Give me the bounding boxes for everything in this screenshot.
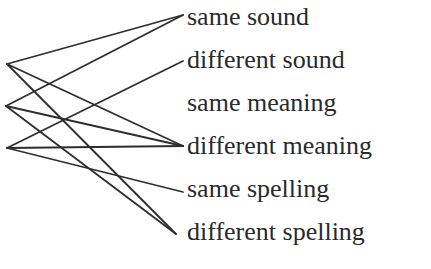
labels-group: same sound different sound same meaning …: [187, 2, 372, 246]
label-different-meaning: different meaning: [187, 131, 372, 160]
connection-diagram: same sound different sound same meaning …: [0, 0, 431, 269]
label-same-sound: same sound: [187, 2, 309, 31]
edge-c-different-meaning: [7, 146, 183, 148]
edge-a-different-spelling: [7, 64, 176, 234]
label-different-sound: different sound: [187, 45, 345, 74]
label-same-spelling: same spelling: [187, 174, 329, 203]
edge-c-different-sound: [7, 61, 183, 148]
label-same-meaning: same meaning: [187, 88, 336, 117]
edges-group: [6, 15, 183, 234]
edge-c-same-spelling: [7, 148, 183, 192]
edge-b-same-sound: [6, 15, 183, 106]
label-different-spelling: different spelling: [187, 217, 365, 246]
edge-a-same-sound: [7, 15, 183, 64]
